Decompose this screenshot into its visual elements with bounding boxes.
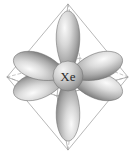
orbital-diagram-svg: Xe bbox=[0, 0, 135, 156]
atom-label: Xe bbox=[60, 69, 76, 84]
orbital-diagram-figure: Xe bbox=[0, 0, 135, 156]
